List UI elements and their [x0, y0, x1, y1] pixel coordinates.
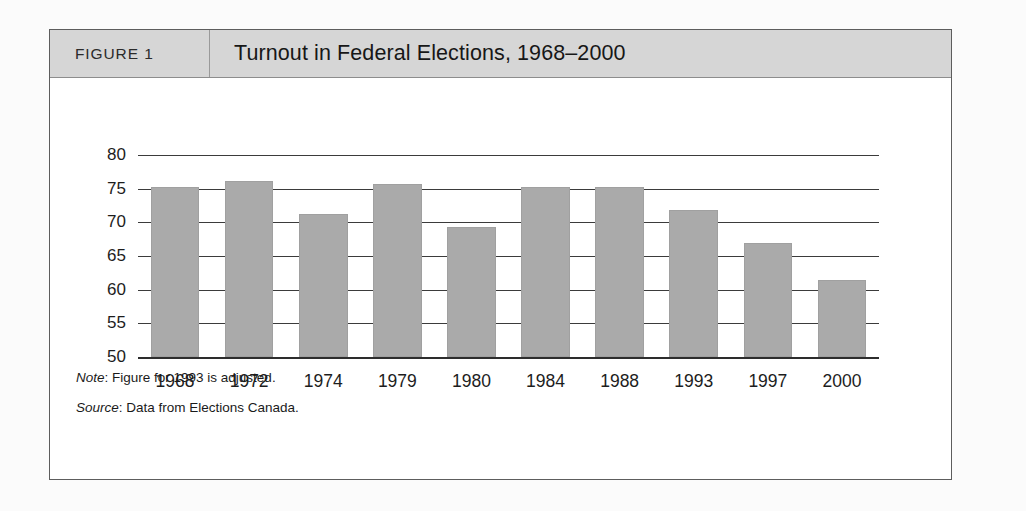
x-axis-baseline [138, 357, 879, 359]
note-prefix: Note [76, 370, 105, 385]
bars-group [138, 155, 879, 357]
y-axis-tick-label: 50 [107, 347, 126, 367]
bar-chart-plot: 80757065605550 1968197219741979198019841… [138, 155, 879, 357]
figure-number-label: FIGURE 1 [50, 30, 210, 77]
note-line: Note: Figure for 1993 is adjusted. [76, 370, 776, 385]
bar-1997 [744, 243, 793, 357]
bar-1988 [595, 187, 644, 357]
source-line: Source: Data from Elections Canada. [76, 400, 776, 415]
bar-2000 [818, 280, 867, 357]
figure-container: FIGURE 1 Turnout in Federal Elections, 1… [49, 29, 952, 480]
y-axis-tick-label: 60 [107, 280, 126, 300]
figure-header: FIGURE 1 Turnout in Federal Elections, 1… [50, 30, 951, 78]
figure-notes: Note: Figure for 1993 is adjusted. Sourc… [76, 370, 776, 430]
bar-1968 [151, 187, 200, 357]
bar-1974 [299, 214, 348, 357]
y-axis-tick-label: 75 [107, 179, 126, 199]
bar-1993 [669, 210, 718, 357]
x-axis-tick-label: 2000 [822, 371, 861, 392]
note-text: : Figure for 1993 is adjusted. [105, 370, 276, 385]
y-axis-tick-label: 55 [107, 313, 126, 333]
source-text: : Data from Elections Canada. [119, 400, 299, 415]
bar-1979 [373, 184, 422, 357]
y-axis-tick-label: 70 [107, 212, 126, 232]
page-background: FIGURE 1 Turnout in Federal Elections, 1… [0, 0, 1026, 511]
source-prefix: Source [76, 400, 119, 415]
bar-1972 [225, 181, 274, 357]
bar-1980 [447, 227, 496, 357]
figure-title: Turnout in Federal Elections, 1968–2000 [210, 30, 951, 77]
bar-1984 [521, 187, 570, 357]
y-axis-tick-label: 65 [107, 246, 126, 266]
y-axis-tick-label: 80 [107, 145, 126, 165]
